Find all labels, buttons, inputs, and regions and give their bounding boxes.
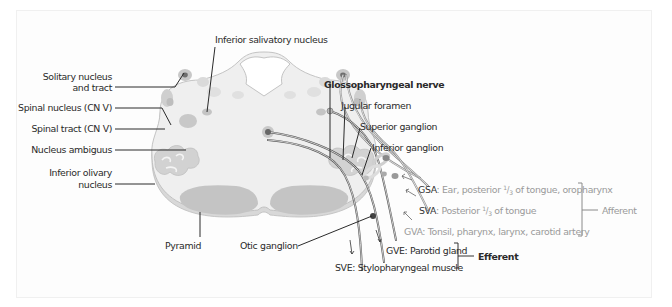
spinal-tract-cn5 (167, 98, 174, 106)
label-olivary-line2: nucleus (78, 179, 112, 190)
label-spinal-tract: Spinal tract (CN V) (32, 123, 112, 134)
label-nucleus-ambiguus: Nucleus ambiguus (31, 144, 112, 155)
glossopharyngeal-diagram: Solitary nucleus and tract Spinal nucleu… (0, 0, 672, 307)
label-otic-ganglion: Otic ganglion (240, 240, 298, 251)
label-inferior-salivatory: Inferior salivatory nucleus (215, 34, 328, 45)
label-inferior-ganglion: Inferior ganglion (372, 142, 444, 153)
group-efferent-label: Efferent (478, 251, 519, 262)
label-pyramid: Pyramid (165, 240, 201, 251)
label-superior-ganglion: Superior ganglion (360, 121, 438, 132)
label-solitary-line2: and tract (72, 82, 112, 93)
inferior-ganglion (392, 173, 399, 179)
fiber-gsa-label: GSA: Ear, posterior 1/3 of tongue, oroph… (418, 184, 613, 196)
label-jugular-foramen: Jugular foramen (340, 100, 411, 111)
fiber-sve-label: SVE: Stylopharyngeal muscle (335, 262, 464, 273)
label-solitary-line1: Solitary nucleus (43, 71, 113, 82)
fiber-gve-label: GVE: Parotid gland (386, 245, 468, 256)
group-afferent-label: Afferent (602, 205, 637, 216)
fiber-sva-label: SVA: Posterior 1/3 of tongue (419, 205, 537, 217)
label-spinal-nucleus: Spinal nucleus (CN V) (18, 102, 112, 113)
label-olivary-line1: Inferior olivary (49, 167, 113, 178)
label-glossopharyngeal-nerve: Glossopharyngeal nerve (324, 79, 444, 90)
nucleus-ambiguus (179, 114, 197, 128)
superior-ganglion (383, 155, 390, 161)
fiber-gva-label: GVA: Tonsil, pharynx, larynx, carotid ar… (404, 226, 590, 237)
